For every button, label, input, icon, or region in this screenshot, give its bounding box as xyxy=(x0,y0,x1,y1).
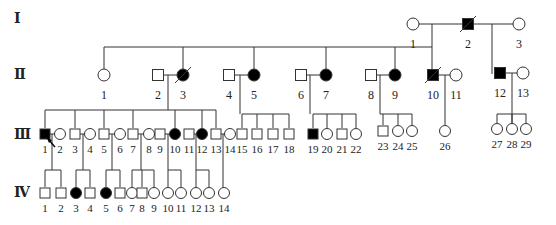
individual-III-20: 20 xyxy=(322,129,334,156)
individual-III-10: 10 xyxy=(170,129,182,156)
individual-I-1: 1 xyxy=(407,18,419,51)
female-icon xyxy=(204,188,215,199)
individual-III-12: 12 xyxy=(197,129,208,156)
individual-IV-9: 9 xyxy=(149,188,160,215)
male-icon xyxy=(224,70,235,81)
affected-female-icon xyxy=(320,69,332,81)
male-icon xyxy=(184,129,194,139)
female-icon xyxy=(513,18,525,30)
individual-number: 12 xyxy=(494,86,506,100)
individual-II-2: 2 xyxy=(153,70,164,103)
individual-number: 3 xyxy=(73,202,79,214)
male-icon xyxy=(296,70,307,81)
female-icon xyxy=(191,188,202,199)
male-icon xyxy=(378,126,388,136)
individual-number: 25 xyxy=(407,140,419,152)
individual-number: 10 xyxy=(427,88,439,102)
female-icon xyxy=(225,129,236,140)
individual-II-12: 12 xyxy=(494,68,506,101)
individual-number: 2 xyxy=(155,88,161,102)
individual-III-29: 29 xyxy=(521,124,533,151)
individual-III-9: 9 xyxy=(155,129,165,155)
individual-number: 3 xyxy=(180,88,186,102)
individual-IV-3: 3 xyxy=(71,188,82,215)
male-icon xyxy=(137,188,147,198)
individual-number: 8 xyxy=(146,143,152,155)
male-icon xyxy=(40,188,50,198)
individual-III-18: 18 xyxy=(284,129,296,155)
affected-female-icon xyxy=(71,188,82,199)
affected-male-icon xyxy=(40,129,50,139)
individual-number: 1 xyxy=(42,202,48,214)
individual-III-25: 25 xyxy=(407,126,419,153)
individual-III-6: 6 xyxy=(115,129,126,156)
affected-female-icon xyxy=(197,129,208,140)
individual-number: 7 xyxy=(323,88,329,102)
female-icon xyxy=(55,129,66,140)
female-icon xyxy=(407,18,419,30)
female-icon xyxy=(450,69,462,81)
individual-IV-8: 8 xyxy=(137,188,147,214)
female-icon xyxy=(492,124,503,135)
individual-number: 2 xyxy=(465,37,471,51)
affected-male-icon xyxy=(495,68,506,79)
individual-number: 11 xyxy=(176,202,187,214)
individual-number: 17 xyxy=(268,143,280,155)
female-icon xyxy=(351,129,362,140)
individual-II-11: 11 xyxy=(450,69,462,102)
affected-female-icon xyxy=(101,188,112,199)
individual-II-1: 1 xyxy=(98,69,110,102)
individual-number: 1 xyxy=(101,88,107,102)
individual-number: 19 xyxy=(308,143,320,155)
individual-number: 5 xyxy=(103,202,109,214)
individual-number: 11 xyxy=(450,88,462,102)
male-icon xyxy=(115,188,125,198)
generation-label: Ⅰ xyxy=(14,11,21,26)
individual-IV-1: 1 xyxy=(40,188,50,214)
male-icon xyxy=(85,188,95,198)
individual-II-8: 8 xyxy=(366,70,377,103)
male-icon xyxy=(70,129,80,139)
male-icon xyxy=(99,129,109,139)
individual-III-19: 19 xyxy=(308,129,320,155)
individual-III-5: 5 xyxy=(99,129,109,155)
female-icon xyxy=(393,126,404,137)
individual-III-28: 28 xyxy=(507,124,519,151)
individual-number: 9 xyxy=(151,202,157,214)
individual-number: 8 xyxy=(139,202,145,214)
individual-number: 16 xyxy=(252,143,264,155)
individual-III-4: 4 xyxy=(85,129,96,156)
individual-II-3: 3 xyxy=(175,67,191,102)
individual-IV-5: 5 xyxy=(101,188,112,215)
male-icon xyxy=(128,129,138,139)
individual-III-14: 14 xyxy=(225,129,237,156)
individual-number: 10 xyxy=(170,143,182,155)
individual-number: 6 xyxy=(117,202,123,214)
individual-number: 13 xyxy=(211,143,223,155)
individual-III-27: 27 xyxy=(492,124,504,151)
affected-female-icon xyxy=(389,69,401,81)
female-icon xyxy=(127,188,138,199)
affected-female-icon xyxy=(248,69,260,81)
individual-number: 9 xyxy=(392,88,398,102)
male-icon xyxy=(337,129,347,139)
individual-number: 15 xyxy=(237,143,249,155)
individual-number: 12 xyxy=(197,143,208,155)
individual-number: 11 xyxy=(184,143,195,155)
individual-number: 14 xyxy=(219,202,231,214)
individual-III-2: 2 xyxy=(55,129,66,156)
individual-number: 26 xyxy=(440,140,452,152)
individual-number: 6 xyxy=(117,143,123,155)
female-icon xyxy=(176,188,187,199)
individual-number: 2 xyxy=(58,202,64,214)
individual-IV-4: 4 xyxy=(85,188,95,214)
individual-III-3: 3 xyxy=(70,129,80,155)
individual-number: 9 xyxy=(157,143,163,155)
individual-number: 5 xyxy=(251,88,257,102)
male-icon xyxy=(155,129,165,139)
male-icon xyxy=(56,188,66,198)
individual-IV-10: 10 xyxy=(163,188,175,215)
individual-II-10: 10 xyxy=(425,67,441,102)
individual-III-26: 26 xyxy=(440,126,452,153)
female-icon xyxy=(85,129,96,140)
